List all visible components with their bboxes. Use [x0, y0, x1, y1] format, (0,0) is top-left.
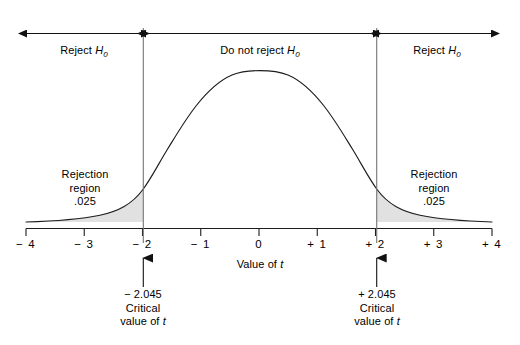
x-tick-label--1: − 1 [191, 238, 211, 251]
region-label-reject-left: Reject H0 [60, 44, 108, 61]
critical-positive-line2: Critical [354, 302, 400, 316]
rejection-region-label-right: Rejection region .025 [411, 168, 458, 209]
critical-positive-value: + 2.045 [354, 288, 400, 302]
critical-value-label-negative: − 2.045 Critical value of t [120, 288, 166, 329]
reject-left-text: Reject [60, 44, 95, 56]
rejection-right-area: .025 [411, 195, 458, 209]
rejection-left-line1: Rejection [62, 168, 109, 182]
h-sub-center: 0 [295, 50, 300, 59]
reject-right-text: Reject [413, 44, 448, 56]
x-tick-label-3: + 3 [424, 238, 444, 251]
critical-negative-line3: value of t [120, 315, 166, 329]
region-label-do-not-reject: Do not reject H0 [220, 44, 299, 61]
critical-value-label-positive: + 2.045 Critical value of t [354, 288, 400, 329]
x-tick-label-4: + 4 [482, 238, 502, 251]
x-tick-label-2: + 2 [366, 238, 386, 251]
rejection-right-line1: Rejection [411, 168, 458, 182]
x-axis-title-variable: t [280, 258, 283, 270]
region-label-reject-right: Reject H0 [413, 44, 461, 61]
rejection-region-label-left: Rejection region .025 [62, 168, 109, 209]
critical-positive-line3: value of t [354, 315, 400, 329]
x-axis-title-text: Value of [237, 258, 281, 270]
rejection-left-area: .025 [62, 195, 109, 209]
x-axis-ticks [26, 229, 492, 237]
h-sub-left: 0 [103, 50, 108, 59]
h-symbol-left: H [95, 44, 103, 56]
do-not-reject-text: Do not reject [220, 44, 287, 56]
h-symbol-center: H [287, 44, 295, 56]
x-tick-label--4: − 4 [16, 238, 36, 251]
t-distribution-hypothesis-test-figure: Reject H0 Do not reject H0 Reject H0 Rej… [0, 0, 520, 345]
rejection-right-line2: region [411, 182, 458, 196]
x-tick-label--3: − 3 [74, 238, 94, 251]
rejection-left-line2: region [62, 182, 109, 196]
critical-negative-line2: Critical [120, 302, 166, 316]
x-tick-label-1: + 1 [307, 238, 327, 251]
x-tick-label-0: 0 [255, 238, 263, 251]
x-axis-title: Value of t [237, 258, 284, 271]
x-tick-label--2: − 2 [133, 238, 153, 251]
critical-negative-value: − 2.045 [120, 288, 166, 302]
h-sub-right: 0 [456, 50, 461, 59]
h-symbol-right: H [448, 44, 456, 56]
